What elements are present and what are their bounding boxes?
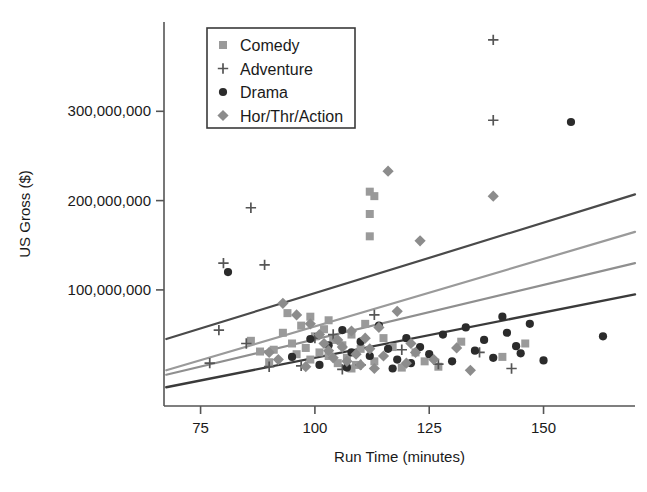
data-point <box>325 316 333 324</box>
data-point <box>224 268 232 276</box>
data-point <box>277 298 288 309</box>
data-point <box>599 332 607 340</box>
data-point <box>517 349 525 357</box>
trend-line <box>166 194 635 339</box>
data-point <box>370 192 378 200</box>
data-point <box>397 345 407 355</box>
data-point <box>256 348 264 356</box>
data-point <box>567 118 575 126</box>
data-point <box>288 339 296 347</box>
legend-item-label: Hor/Thr/Action <box>240 108 343 125</box>
y-tick-label: 100,000,000 <box>68 281 151 298</box>
data-point <box>414 235 425 246</box>
data-point <box>246 203 256 213</box>
data-point <box>465 365 476 376</box>
plot-canvas: 100,000,000200,000,000300,000,0007510012… <box>0 0 647 492</box>
data-point <box>488 191 499 202</box>
data-point <box>338 326 346 334</box>
data-point <box>539 356 547 364</box>
data-point <box>369 310 379 320</box>
legend-item-label: Drama <box>240 84 288 101</box>
data-point <box>288 353 296 361</box>
data-point <box>259 260 269 270</box>
data-point <box>506 363 516 373</box>
data-point <box>488 115 498 125</box>
data-point <box>315 348 323 356</box>
data-point <box>306 335 314 343</box>
data-point <box>389 364 397 372</box>
data-point <box>448 357 456 365</box>
data-point <box>488 35 498 45</box>
data-point <box>214 325 224 335</box>
data-point <box>512 342 520 350</box>
data-point <box>421 357 429 365</box>
scatter-plot-figure: 100,000,000200,000,000300,000,0007510012… <box>0 0 647 492</box>
data-point <box>382 166 393 177</box>
x-tick-label: 75 <box>192 419 209 436</box>
data-point <box>471 347 479 355</box>
data-point <box>521 339 529 347</box>
data-point <box>393 355 401 363</box>
data-point <box>392 306 403 317</box>
data-point <box>489 354 497 362</box>
data-point <box>503 329 511 337</box>
data-point <box>279 329 287 337</box>
data-point <box>439 330 447 338</box>
legend-item-label: Adventure <box>240 61 313 78</box>
data-point <box>361 320 369 328</box>
data-point <box>297 322 305 330</box>
x-tick-label: 100 <box>302 419 327 436</box>
data-point <box>302 344 310 352</box>
y-axis-title: US Gross ($) <box>16 170 33 258</box>
legend-item-label: Comedy <box>240 37 300 54</box>
data-point <box>291 309 302 320</box>
circle-icon <box>219 88 227 96</box>
trend-line <box>166 294 635 387</box>
data-point <box>379 334 387 342</box>
data-point <box>480 336 488 344</box>
data-point <box>366 210 374 218</box>
data-point <box>366 232 374 240</box>
square-icon <box>219 41 227 49</box>
y-tick-label: 300,000,000 <box>68 102 151 119</box>
x-tick-label: 150 <box>531 419 556 436</box>
data-point <box>315 361 323 369</box>
axis-labels-layer: 100,000,000200,000,000300,000,0007510012… <box>16 102 556 465</box>
data-point <box>283 309 291 317</box>
legend: ComedyAdventureDramaHor/Thr/Action <box>207 28 355 128</box>
y-tick-label: 200,000,000 <box>68 192 151 209</box>
data-point <box>306 356 314 364</box>
data-point <box>384 345 392 353</box>
data-point <box>526 320 534 328</box>
data-point <box>462 323 470 331</box>
x-axis-title: Run Time (minutes) <box>334 448 465 465</box>
data-point <box>498 313 506 321</box>
data-point <box>498 353 506 361</box>
data-point <box>218 258 228 268</box>
x-tick-label: 125 <box>417 419 442 436</box>
